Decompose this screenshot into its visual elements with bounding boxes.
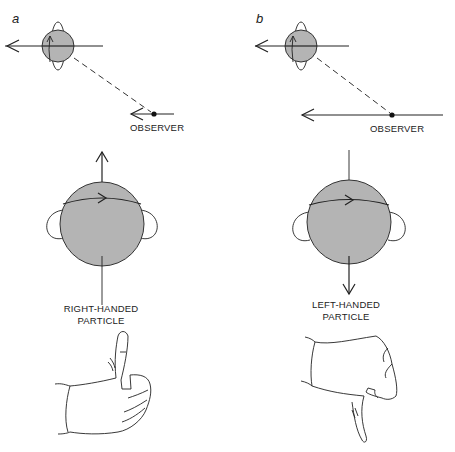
particle-label-line1: LEFT-HANDED: [312, 299, 380, 310]
big-particle-left-handed: [293, 150, 406, 294]
particle-sphere-large: [60, 182, 144, 266]
observer-b: OBSERVER: [302, 109, 443, 134]
thumbs-up-hand-icon: [55, 332, 151, 435]
thumbs-down-hand-icon: [301, 336, 397, 442]
sight-line-dashed: [74, 58, 151, 112]
small-particle-b: [255, 22, 349, 70]
particle-label-line2: PARTICLE: [77, 315, 124, 326]
panel-a: a OBSERVER RIG: [5, 11, 184, 434]
panel-letter-a: a: [12, 11, 19, 26]
observer-label: OBSERVER: [130, 122, 184, 133]
helicity-diagram: a OBSERVER RIG: [0, 0, 455, 452]
particle-sphere-large: [307, 180, 391, 264]
sight-line-dashed: [317, 58, 390, 113]
observer-dot: [151, 111, 156, 116]
panel-b: b OBSERVER LEFT-HAN: [255, 11, 443, 442]
observer-dot: [389, 112, 394, 117]
big-particle-right-handed: [47, 152, 158, 305]
particle-label-line1: RIGHT-HANDED: [64, 303, 139, 314]
panel-letter-b: b: [256, 11, 263, 26]
small-particle-a: [5, 22, 103, 70]
observer-a: OBSERVER: [130, 108, 184, 133]
observer-label: OBSERVER: [370, 123, 424, 134]
particle-label-line2: PARTICLE: [322, 311, 369, 322]
